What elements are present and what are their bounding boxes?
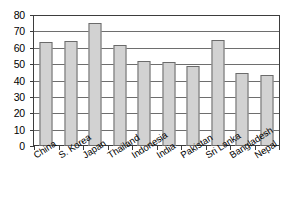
bar-slot (206, 16, 231, 146)
y-tick-label: 40 (14, 75, 25, 86)
bar-slot (108, 16, 133, 146)
y-tick-label: 30 (14, 92, 25, 103)
y-tick-label: 50 (14, 59, 25, 70)
y-tick-label: 60 (14, 43, 25, 54)
bar (187, 66, 200, 146)
y-tick-label: 10 (14, 124, 25, 135)
bar-slot (230, 16, 255, 146)
bar (64, 41, 77, 146)
bar (211, 40, 224, 146)
bar-slot (181, 16, 206, 146)
x-axis-labels: ChinaS. KoreaJapanThailandIndonesiaIndia… (0, 150, 292, 208)
bar-slot (59, 16, 84, 146)
bar (113, 45, 126, 146)
bar-slot (132, 16, 157, 146)
bar-slot (34, 16, 59, 146)
y-axis: 80706050403020100 (0, 15, 30, 146)
bar-slot (157, 16, 182, 146)
y-tick-label: 20 (14, 108, 25, 119)
bar-slot (83, 16, 108, 146)
y-tick-label: 80 (14, 10, 25, 21)
y-tick-label: 70 (14, 26, 25, 37)
bar-chart: 80706050403020100 ChinaS. KoreaJapanThai… (0, 0, 292, 208)
bars-layer (34, 16, 279, 146)
bar (40, 42, 53, 146)
bar (89, 23, 102, 147)
bar (138, 61, 151, 146)
